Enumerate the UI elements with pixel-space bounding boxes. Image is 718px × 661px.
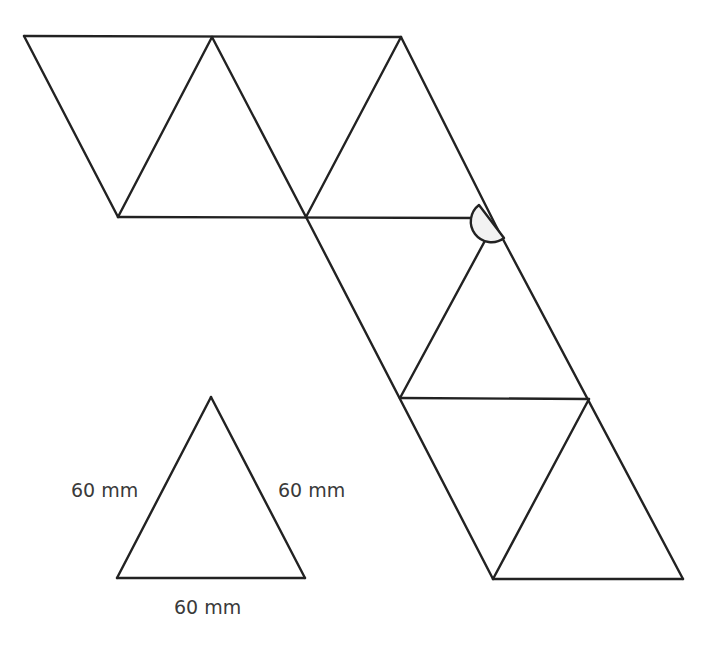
reference-left-side-label: 60 mm [71,479,138,501]
reference-base-label: 60 mm [174,596,241,618]
net-diagonal-strip [306,217,683,579]
net-top-strip [24,36,497,228]
triangle-net-diagram [0,0,718,661]
reference-triangle [117,397,305,578]
reference-right-side-label: 60 mm [278,479,345,501]
diagram-canvas: 60 mm 60 mm 60 mm [0,0,718,661]
